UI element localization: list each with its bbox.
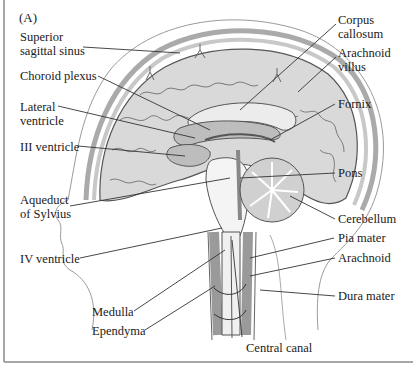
label-lateral-ventricle: Lateral ventricle <box>20 100 64 128</box>
label-medulla: Medulla <box>92 305 134 319</box>
label-pons: Pons <box>338 166 362 180</box>
label-dura-mater: Dura mater <box>338 289 395 303</box>
cerebellum-shape <box>240 158 304 222</box>
label-aqueduct-of-sylvius: Aqueduct of Sylvius <box>20 193 71 221</box>
panel-label: (A) <box>19 10 37 26</box>
label-cerebellum: Cerebellum <box>338 212 396 226</box>
label-superior-sagittal-sinus: Superior sagittal sinus <box>20 30 85 58</box>
label-iv-ventricle: IV ventricle <box>20 252 80 266</box>
label-fornix: Fornix <box>338 97 371 111</box>
label-ependyma: Ependyma <box>92 324 145 338</box>
spinal-cord <box>208 232 256 340</box>
third-ventricle-shape <box>167 145 210 167</box>
aqueduct-shape <box>238 150 240 220</box>
label-corpus-callosum: Corpus callosum <box>338 13 383 41</box>
head-diagram <box>56 20 384 340</box>
label-arachnoid-villus: Arachnoid villus <box>338 46 391 74</box>
label-pia-mater: Pia mater <box>338 231 386 245</box>
label-iii-ventricle: III ventricle <box>20 140 79 154</box>
label-arachnoid: Arachnoid <box>338 251 391 265</box>
neck-outline <box>270 235 286 340</box>
label-central-canal: Central canal <box>246 341 312 355</box>
label-choroid-plexus: Choroid plexus <box>20 69 97 83</box>
